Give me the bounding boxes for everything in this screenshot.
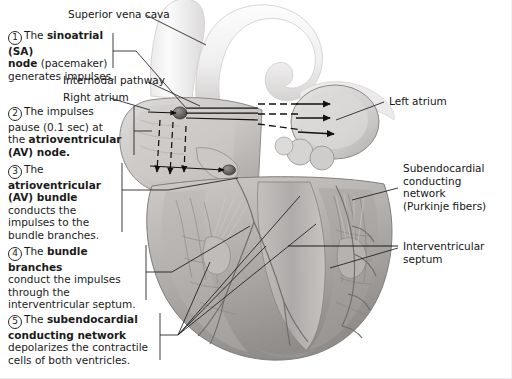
- interventricular-line-1: Interventricular: [403, 240, 503, 253]
- right-atrium-chamber: [120, 98, 262, 190]
- callout-5-number: 5: [8, 315, 22, 329]
- callout-3-text-d: bundle branches.: [8, 229, 99, 241]
- callout-2-bold-a: atrioventricular: [29, 133, 122, 145]
- callout-5-text-a: The: [24, 313, 47, 325]
- interventricular-line-2: septum: [403, 253, 503, 266]
- callout-2-text-a: The impulses: [24, 105, 94, 117]
- callout-4-text-a: The: [24, 245, 47, 257]
- callout-4-bundle-branches: 4The bundle branchesconduct the impulses…: [8, 245, 144, 311]
- callout-5-bold-a: subendocardial: [47, 313, 138, 325]
- callout-1-bold-a: sinoatrial (SA): [8, 29, 103, 57]
- callout-1-text-a: The: [24, 29, 47, 41]
- callout-1-text-b: (pacemaker): [37, 57, 107, 69]
- callout-4-text-b: conduct the impulses: [8, 273, 121, 285]
- callout-2-text-c: the: [8, 133, 29, 145]
- callout-2-number: 2: [8, 107, 22, 121]
- callout-2-bold-b: (AV) node.: [8, 146, 70, 158]
- callout-4-number: 4: [8, 247, 22, 261]
- callout-5-text-b: depolarizes the contractile: [8, 341, 148, 353]
- callout-3-number: 3: [8, 165, 22, 179]
- callout-1-number: 1: [8, 31, 22, 45]
- callout-3-bold-a: atrioventricular: [8, 179, 101, 191]
- callout-1-bold-b: node: [8, 57, 37, 69]
- callout-5-subendocardial-network: 5The subendocardialconducting networkdep…: [8, 313, 160, 366]
- callout-3-av-bundle: 3Theatrioventricular(AV) bundleconducts …: [8, 163, 118, 241]
- callout-2-av-node-pause: 2The impulsespause (0.1 sec) atthe atrio…: [8, 105, 128, 158]
- subendocardial-line-2: conducting network: [403, 175, 507, 200]
- callout-2-text-b: pause (0.1 sec) at: [8, 121, 103, 133]
- label-left-atrium: Left atrium: [389, 95, 447, 108]
- subendocardial-line-3: (Purkinje fibers): [403, 200, 507, 213]
- label-interventricular-septum: Interventricular septum: [403, 240, 503, 265]
- callout-1-sinoatrial-node: 1The sinoatrial (SA)node (pacemaker)gene…: [8, 29, 116, 82]
- callout-5-text-c: cells of both ventricles.: [8, 354, 130, 366]
- label-right-atrium: Right atrium: [63, 91, 129, 104]
- label-superior-vena-cava: Superior vena cava: [68, 8, 170, 21]
- callout-3-bold-b: (AV) bundle: [8, 191, 78, 203]
- callout-4-text-c: through the: [8, 286, 70, 298]
- callout-3-text-c: impulses to the: [8, 216, 89, 228]
- callout-5-bold-b: conducting network: [8, 329, 126, 341]
- label-subendocardial-conducting-network: Subendocardial conducting network (Purki…: [403, 162, 507, 212]
- atrioventricular-node-marker: [223, 165, 236, 175]
- cardiac-conduction-diagram: Superior vena cava Internodal pathway Ri…: [0, 0, 512, 379]
- subendocardial-line-1: Subendocardial: [403, 162, 507, 175]
- callout-3-text-b: conducts the: [8, 204, 76, 216]
- callout-1-text-c: generates impulses.: [8, 70, 115, 82]
- callout-3-text-a: The: [24, 163, 44, 175]
- callout-4-text-d: interventricular septum.: [8, 298, 136, 310]
- ventricles: [147, 177, 392, 360]
